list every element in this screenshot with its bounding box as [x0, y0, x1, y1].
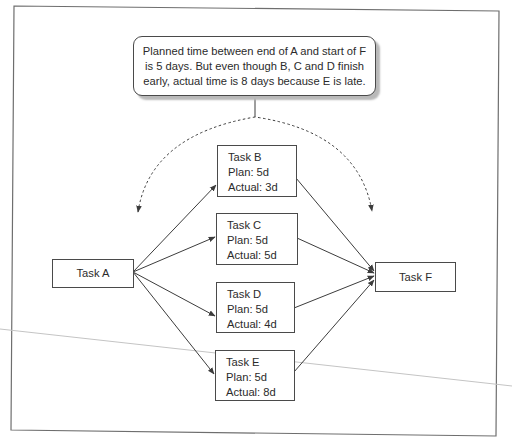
- edge-d-f: [294, 276, 374, 308]
- task-e-node: Task E Plan: 5d Actual: 8d: [215, 350, 295, 401]
- edge-a-b: [133, 185, 216, 272]
- edge-a-d: [133, 272, 215, 316]
- task-b-label: Task B: [228, 150, 296, 165]
- task-a-node: Task A: [52, 259, 134, 288]
- diagram-canvas: Planned time between end of A and start …: [0, 0, 512, 444]
- edge-b-f: [296, 178, 374, 271]
- task-f-label: Task F: [399, 270, 432, 285]
- task-b-node: Task B Plan: 5d Actual: 3d: [217, 145, 297, 197]
- task-e-label: Task E: [226, 355, 294, 370]
- task-d-actual: Actual: 4d: [227, 317, 294, 332]
- task-e-actual: Actual: 8d: [226, 385, 294, 400]
- task-e-plan: Plan: 5d: [226, 370, 294, 385]
- task-b-plan: Plan: 5d: [228, 165, 296, 180]
- task-c-plan: Plan: 5d: [227, 233, 297, 248]
- task-d-label: Task D: [227, 287, 294, 302]
- task-c-node: Task C Plan: 5d Actual: 5d: [216, 213, 298, 265]
- task-d-node: Task D Plan: 5d Actual: 4d: [216, 282, 295, 333]
- callout-text: Planned time between end of A and start …: [140, 44, 369, 89]
- task-c-actual: Actual: 5d: [227, 248, 297, 263]
- task-c-label: Task C: [227, 218, 297, 233]
- edge-a-e: [133, 272, 214, 374]
- edge-a-c: [133, 237, 215, 272]
- task-d-plan: Plan: 5d: [227, 302, 294, 317]
- task-a-label: Task A: [77, 266, 110, 281]
- task-f-node: Task F: [375, 262, 456, 292]
- callout-note: Planned time between end of A and start …: [133, 36, 376, 96]
- task-b-actual: Actual: 3d: [228, 180, 296, 195]
- edge-e-f: [294, 280, 374, 372]
- edge-c-f: [297, 238, 374, 273]
